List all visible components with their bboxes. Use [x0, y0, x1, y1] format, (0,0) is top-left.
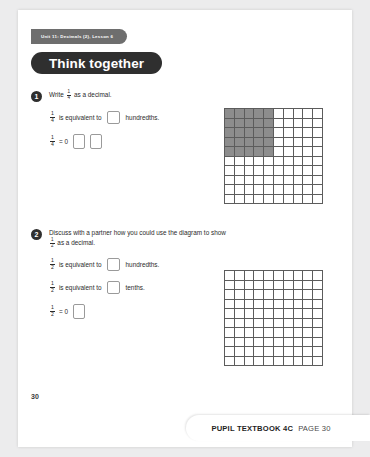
grid-cell[interactable]: [254, 309, 264, 319]
grid-cell[interactable]: [294, 128, 304, 138]
grid-cell[interactable]: [264, 185, 274, 195]
grid-cell-shaded[interactable]: [254, 109, 264, 119]
grid-cell[interactable]: [303, 338, 313, 348]
grid-cell[interactable]: [284, 128, 294, 138]
grid-cell[interactable]: [313, 328, 323, 338]
grid-cell[interactable]: [303, 328, 313, 338]
grid-cell[interactable]: [294, 338, 304, 348]
grid-cell[interactable]: [254, 338, 264, 348]
grid-cell[interactable]: [274, 319, 284, 329]
grid-cell[interactable]: [284, 109, 294, 119]
grid-cell[interactable]: [254, 185, 264, 195]
grid-cell[interactable]: [274, 338, 284, 348]
grid-cell[interactable]: [274, 290, 284, 300]
hundred-square-shaded[interactable]: [224, 108, 323, 204]
grid-cell[interactable]: [225, 338, 235, 348]
grid-cell[interactable]: [225, 290, 235, 300]
grid-cell-shaded[interactable]: [254, 119, 264, 129]
grid-cell[interactable]: [245, 157, 255, 167]
grid-cell[interactable]: [235, 328, 245, 338]
grid-cell[interactable]: [303, 109, 313, 119]
grid-cell[interactable]: [294, 271, 304, 281]
grid-cell[interactable]: [225, 157, 235, 167]
grid-cell[interactable]: [254, 195, 264, 205]
grid-cell-shaded[interactable]: [235, 128, 245, 138]
grid-cell[interactable]: [245, 347, 255, 357]
grid-cell[interactable]: [225, 281, 235, 291]
grid-cell[interactable]: [274, 300, 284, 310]
grid-cell[interactable]: [245, 166, 255, 176]
grid-cell-shaded[interactable]: [254, 128, 264, 138]
grid-cell[interactable]: [225, 300, 235, 310]
grid-cell-shaded[interactable]: [245, 128, 255, 138]
grid-cell[interactable]: [294, 119, 304, 129]
answer-box[interactable]: [73, 134, 85, 149]
grid-cell[interactable]: [274, 185, 284, 195]
grid-cell[interactable]: [264, 309, 274, 319]
grid-cell[interactable]: [274, 138, 284, 148]
grid-cell[interactable]: [235, 338, 245, 348]
grid-cell[interactable]: [303, 138, 313, 148]
grid-cell[interactable]: [264, 328, 274, 338]
grid-cell[interactable]: [303, 195, 313, 205]
grid-cell[interactable]: [264, 166, 274, 176]
grid-cell[interactable]: [245, 185, 255, 195]
grid-cell[interactable]: [235, 319, 245, 329]
grid-cell[interactable]: [274, 147, 284, 157]
grid-cell[interactable]: [303, 166, 313, 176]
grid-cell[interactable]: [274, 328, 284, 338]
grid-cell[interactable]: [284, 271, 294, 281]
grid-cell[interactable]: [294, 157, 304, 167]
grid-cell[interactable]: [313, 338, 323, 348]
grid-cell[interactable]: [294, 166, 304, 176]
grid-cell[interactable]: [313, 128, 323, 138]
grid-cell[interactable]: [245, 281, 255, 291]
grid-cell[interactable]: [313, 300, 323, 310]
grid-cell[interactable]: [284, 319, 294, 329]
grid-cell[interactable]: [303, 157, 313, 167]
grid-cell[interactable]: [284, 166, 294, 176]
grid-cell[interactable]: [303, 300, 313, 310]
answer-box[interactable]: [107, 111, 120, 124]
grid-cell[interactable]: [235, 271, 245, 281]
grid-cell-shaded[interactable]: [254, 147, 264, 157]
grid-cell[interactable]: [294, 290, 304, 300]
grid-cell-shaded[interactable]: [264, 138, 274, 148]
grid-cell[interactable]: [274, 281, 284, 291]
grid-cell[interactable]: [303, 147, 313, 157]
grid-cell-shaded[interactable]: [225, 147, 235, 157]
grid-cell[interactable]: [254, 271, 264, 281]
grid-cell[interactable]: [303, 271, 313, 281]
grid-cell[interactable]: [264, 338, 274, 348]
grid-cell[interactable]: [264, 347, 274, 357]
grid-cell[interactable]: [274, 166, 284, 176]
grid-cell[interactable]: [284, 119, 294, 129]
grid-cell[interactable]: [313, 185, 323, 195]
grid-cell[interactable]: [274, 128, 284, 138]
grid-cell[interactable]: [264, 290, 274, 300]
grid-cell[interactable]: [235, 176, 245, 186]
grid-cell[interactable]: [225, 271, 235, 281]
grid-cell[interactable]: [264, 176, 274, 186]
grid-cell-shaded[interactable]: [254, 138, 264, 148]
grid-cell[interactable]: [284, 338, 294, 348]
grid-cell[interactable]: [235, 185, 245, 195]
grid-cell[interactable]: [294, 328, 304, 338]
grid-cell[interactable]: [303, 128, 313, 138]
grid-cell-shaded[interactable]: [225, 138, 235, 148]
grid-cell[interactable]: [264, 271, 274, 281]
grid-cell[interactable]: [313, 290, 323, 300]
grid-cell[interactable]: [245, 300, 255, 310]
grid-cell[interactable]: [303, 176, 313, 186]
answer-box[interactable]: [73, 304, 85, 319]
grid-cell[interactable]: [294, 138, 304, 148]
grid-cell[interactable]: [235, 357, 245, 367]
grid-cell-shaded[interactable]: [235, 138, 245, 148]
grid-cell[interactable]: [294, 319, 304, 329]
grid-cell[interactable]: [294, 309, 304, 319]
grid-cell[interactable]: [294, 357, 304, 367]
grid-cell[interactable]: [313, 138, 323, 148]
grid-cell[interactable]: [225, 185, 235, 195]
grid-cell[interactable]: [313, 157, 323, 167]
grid-cell[interactable]: [274, 176, 284, 186]
